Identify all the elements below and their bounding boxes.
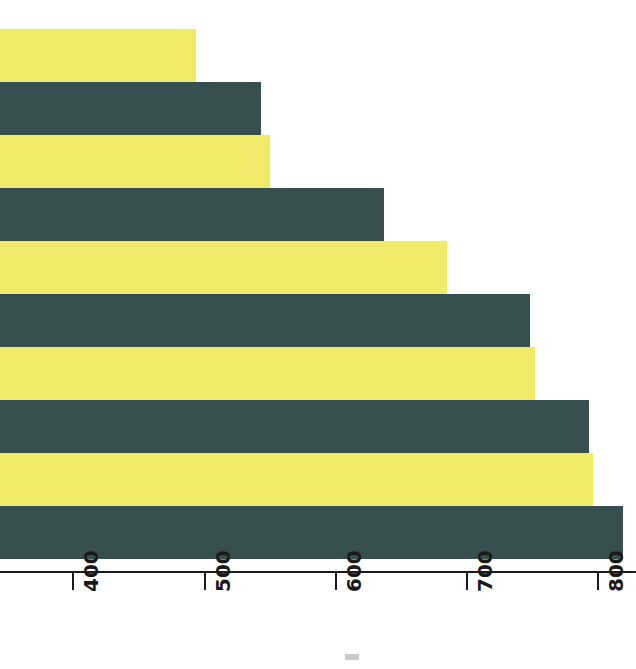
bar-1 [0,29,196,82]
bar-7 [0,347,535,400]
bar-3 [0,135,270,188]
axis-tick-label-600: 600 [344,550,364,592]
bar-6 [0,294,530,347]
page-artifact-mark [345,654,359,660]
axis-tick-600 [335,573,337,590]
axis-tick-500 [204,573,206,590]
axis-tick-700 [466,573,468,590]
bar-2 [0,82,261,135]
bar-9 [0,453,593,506]
axis-tick-400 [72,573,74,590]
bar-chart: 400 500 600 700 800 [0,0,636,669]
axis-tick-label-800: 800 [606,550,626,592]
bar-5 [0,241,447,294]
plot-area [0,29,636,571]
bar-8 [0,400,589,453]
axis-tick-label-700: 700 [475,550,495,592]
axis-tick-800 [597,573,599,590]
bar-4 [0,188,384,241]
axis-tick-label-500: 500 [213,550,233,592]
axis-tick-label-400: 400 [81,550,101,592]
